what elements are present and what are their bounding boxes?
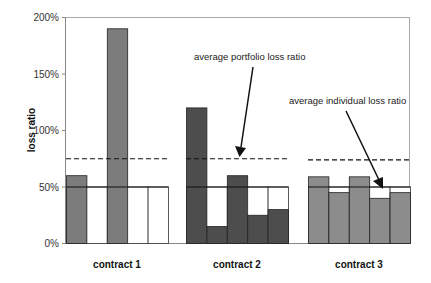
bar (370, 198, 390, 243)
bar (268, 210, 288, 244)
bar (187, 108, 207, 244)
y-axis-label: loss ratio (26, 108, 37, 152)
y-tick-label: 150% (33, 69, 59, 80)
y-tick-label: 100% (33, 125, 59, 136)
bar (390, 193, 410, 244)
y-tick-label: 200% (33, 12, 59, 23)
annotation-individual: average individual loss ratio (289, 95, 406, 106)
y-tick-label: 50% (39, 182, 59, 193)
bar (207, 227, 227, 244)
category-labels: contract 1contract 2contract 3 (93, 259, 383, 270)
avg-box (128, 187, 148, 244)
bar (329, 193, 349, 244)
bar (107, 29, 127, 244)
bar (227, 176, 247, 244)
loss-ratio-chart: 0%50%100%150%200% loss ratio contract 1c… (0, 0, 431, 283)
category-label: contract 2 (213, 259, 261, 270)
avg-box (87, 187, 107, 244)
category-label: contract 3 (335, 259, 383, 270)
y-ticks: 0%50%100%150%200% (33, 12, 65, 249)
category-label: contract 1 (93, 259, 141, 270)
bar (67, 176, 87, 244)
bar (248, 215, 268, 243)
annotation-portfolio: average portfolio loss ratio (194, 51, 305, 62)
avg-box (148, 187, 168, 244)
y-tick-label: 0% (45, 238, 60, 249)
